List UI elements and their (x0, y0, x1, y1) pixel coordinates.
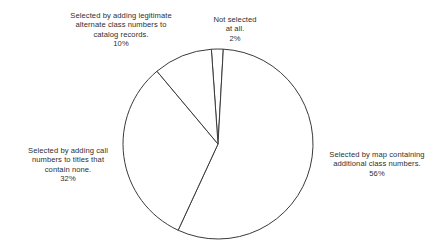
slice-label-value: 56% (314, 169, 440, 178)
slice-label-line-1: Not selected (185, 15, 285, 24)
slice-label-line-2: alternate class numbers to (48, 20, 194, 29)
slice-label-value: 32% (6, 174, 130, 183)
slice-label-map-containing: Selected by map containing additional cl… (314, 150, 440, 178)
slice-label-not-selected: Not selected at all. 2% (185, 15, 285, 43)
slice-label-line-2: at all. (185, 24, 285, 33)
slice-label-line-1: Selected by adding call (6, 146, 130, 155)
slice-label-line-2: numbers to titles that (6, 155, 130, 164)
pie-slice-group (123, 49, 313, 239)
pie-chart: Selected by adding legitimate alternate … (0, 0, 446, 249)
slice-label-alternate-class-numbers: Selected by adding legitimate alternate … (48, 11, 194, 48)
slice-label-line-2: additional class numbers. (314, 159, 440, 168)
slice-label-value: 10% (48, 39, 194, 48)
slice-label-value: 2% (185, 34, 285, 43)
slice-label-line-1: Selected by adding legitimate (48, 11, 194, 20)
slice-label-line-3: contain none. (6, 165, 130, 174)
slice-label-line-1: Selected by map containing (314, 150, 440, 159)
slice-label-line-3: catalog records. (48, 30, 194, 39)
slice-label-call-numbers: Selected by adding call numbers to title… (6, 146, 130, 183)
